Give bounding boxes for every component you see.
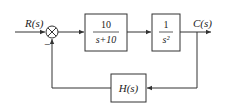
g1-numerator: 10	[85, 20, 127, 30]
summing-junction	[46, 26, 58, 38]
h-block-label: H(s)	[111, 83, 146, 94]
minus-sign: −	[44, 39, 50, 50]
output-label: C(s)	[193, 18, 212, 29]
input-label: R(s)	[25, 18, 43, 29]
g2-numerator: 1	[152, 20, 180, 30]
g1-denominator: s+10	[85, 35, 127, 45]
g2-denominator: s²	[152, 35, 180, 45]
